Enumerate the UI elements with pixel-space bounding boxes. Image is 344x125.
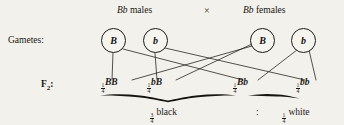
phenotype-black-denominator: 4	[150, 118, 154, 125]
black-phenotype-brace	[100, 94, 236, 102]
f2-offspring-4-genotype: bb	[300, 77, 309, 87]
line-maleb-to-bB	[155, 53, 157, 80]
female-parent-label: Bb females	[243, 6, 285, 16]
f2-offspring-4-denominator: 4	[296, 88, 300, 95]
phenotype-black-fraction: 3 4	[150, 113, 154, 125]
line-femaleb-to-Bb	[258, 50, 297, 80]
line-maleB-to-Bb	[123, 49, 243, 80]
phenotype-white-label: white	[288, 107, 309, 117]
line-maleB-to-BB	[112, 53, 113, 80]
gamete-circle-male-b: b	[143, 28, 168, 53]
phenotype-black-summary: 3 4 black	[150, 108, 177, 125]
phenotype-white-fraction: 1 4	[282, 113, 286, 125]
f2-offspring-3-denominator: 4	[233, 88, 237, 95]
f2-offspring-4: 1 4 bb	[296, 78, 309, 95]
phenotype-black-label: black	[156, 107, 177, 117]
phenotype-ratio-separator: :	[256, 108, 259, 118]
male-parent-label: Bb males	[117, 6, 152, 16]
female-parent-genotype: Bb	[243, 5, 254, 15]
f2-offspring-1-genotype: BB	[105, 77, 117, 87]
f2-offspring-3: 1 4 Bb	[233, 78, 248, 95]
f2-offspring-3-genotype: Bb	[237, 77, 248, 87]
f2-offspring-2-denominator: 4	[147, 88, 151, 95]
genetics-cross-figure: Bb males × Bb females Gametes: F2:	[0, 0, 344, 125]
white-phenotype-brace	[248, 94, 300, 99]
f2-offspring-2: 1 4 bB	[147, 78, 162, 95]
cross-symbol: ×	[204, 6, 210, 16]
female-parent-text: females	[254, 5, 286, 15]
gamete-circle-male-B: B	[101, 28, 126, 53]
gamete-circle-female-b: b	[291, 28, 316, 53]
line-femaleB-to-bB	[176, 44, 252, 80]
gamete-circle-female-B: B	[250, 28, 275, 53]
f2-row-label-colon: :	[50, 79, 53, 89]
phenotype-white-denominator: 4	[282, 118, 286, 125]
f2-row-label: F2:	[41, 80, 53, 92]
line-maleb-to-bb	[165, 48, 305, 80]
line-femaleb-to-bb	[309, 50, 316, 80]
gametes-row-label: Gametes:	[8, 36, 44, 46]
f2-offspring-1-denominator: 4	[101, 88, 105, 95]
f2-offspring-2-genotype: bB	[151, 77, 162, 87]
f2-offspring-1: 1 4 BB	[101, 78, 118, 95]
male-parent-genotype: Bb	[117, 5, 128, 15]
phenotype-white-summary: 1 4 white	[282, 108, 310, 125]
male-parent-text: males	[128, 5, 153, 15]
